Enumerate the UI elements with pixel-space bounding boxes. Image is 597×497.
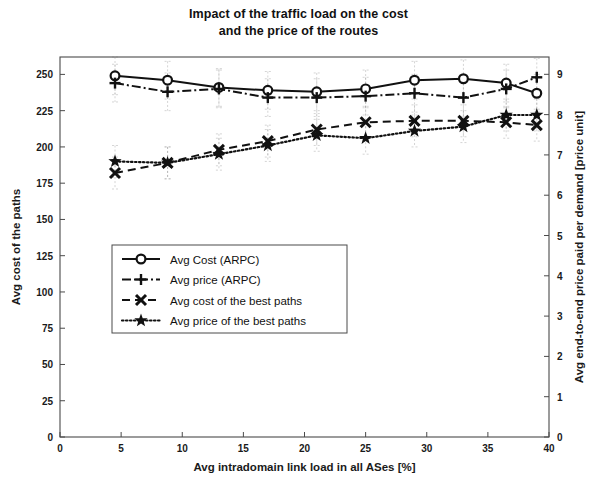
x-tick-label: 15	[238, 443, 250, 454]
y-left-tick-label: 75	[42, 323, 54, 334]
legend-label-2: Avg cost of the best paths	[170, 295, 302, 307]
legend-label-1: Avg price (ARPC)	[170, 274, 261, 286]
legend-label-3: Avg price of the best paths	[170, 315, 306, 327]
x-tick-label: 40	[543, 443, 555, 454]
series-line	[115, 121, 537, 173]
data-point-star	[359, 131, 372, 144]
y-left-tick-label: 175	[36, 178, 53, 189]
x-tick-label: 30	[421, 443, 433, 454]
y-left-tick-label: 150	[36, 214, 53, 225]
chart-canvas: 0510152025303540025507510012515017520022…	[0, 0, 597, 497]
y-right-axis-label: Avg end-to-end price paid per demand [pr…	[573, 111, 585, 384]
y-right-tick-label: 1	[557, 392, 563, 403]
y-left-tick-label: 0	[47, 432, 53, 443]
y-right-tick-label: 3	[557, 311, 563, 322]
x-tick-label: 25	[360, 443, 372, 454]
y-left-axis-label: Avg cost of the paths	[10, 189, 22, 306]
y-right-tick-label: 6	[557, 190, 563, 201]
data-point-circle	[410, 76, 419, 85]
y-right-tick-label: 8	[557, 110, 563, 121]
data-point-circle	[163, 76, 172, 85]
data-point-circle	[459, 74, 468, 83]
y-left-tick-label: 100	[36, 287, 53, 298]
chart-page: Impact of the traffic load on the cost a…	[0, 0, 597, 497]
y-left-tick-label: 50	[42, 359, 54, 370]
y-left-tick-label: 25	[42, 396, 54, 407]
legend-circle-marker	[137, 255, 146, 264]
y-left-tick-label: 200	[36, 142, 53, 153]
legend-label-0: Avg Cost (ARPC)	[170, 254, 259, 266]
x-tick-label: 20	[299, 443, 311, 454]
x-axis-label: Avg intradomain link load in all ASes [%…	[193, 461, 415, 473]
y-right-tick-label: 0	[557, 432, 563, 443]
y-left-tick-label: 250	[36, 69, 53, 80]
x-tick-label: 5	[118, 443, 124, 454]
data-point-circle	[532, 89, 541, 98]
y-right-tick-label: 7	[557, 150, 563, 161]
y-right-tick-label: 9	[557, 69, 563, 80]
y-right-tick-label: 2	[557, 351, 563, 362]
x-tick-label: 10	[177, 443, 189, 454]
y-left-tick-label: 225	[36, 106, 53, 117]
y-right-tick-label: 5	[557, 231, 563, 242]
y-left-tick-label: 125	[36, 251, 53, 262]
y-right-tick-label: 4	[557, 271, 563, 282]
x-tick-label: 0	[57, 443, 63, 454]
series-line	[115, 115, 537, 163]
x-tick-label: 35	[482, 443, 494, 454]
